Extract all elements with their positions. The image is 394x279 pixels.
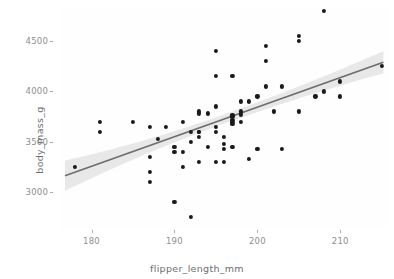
y-tick-label: 4000	[26, 86, 48, 96]
x-tick-label: 210	[332, 236, 349, 246]
x-tick-mark	[92, 230, 93, 233]
y-tick-mark	[50, 41, 53, 42]
confidence-ribbon	[65, 51, 383, 191]
x-tick-label: 190	[166, 236, 183, 246]
x-tick-mark	[257, 230, 258, 233]
x-tick-mark	[340, 230, 341, 233]
x-axis: 180190200210	[60, 230, 390, 250]
plot-panel	[60, 8, 390, 230]
y-axis-title: body_mass_g	[34, 106, 45, 173]
x-tick-label: 200	[249, 236, 266, 246]
y-tick-label: 3000	[26, 187, 48, 197]
y-tick-label: 4500	[26, 36, 48, 46]
x-axis-title: flipper_length_mm	[0, 263, 394, 274]
x-tick-mark	[174, 230, 175, 233]
y-axis: 3000350040004500	[0, 8, 56, 230]
chart-figure: 3000350040004500 180190200210 body_mass_…	[0, 0, 394, 279]
x-tick-label: 180	[83, 236, 100, 246]
plot-svg	[60, 8, 390, 230]
y-tick-mark	[50, 142, 53, 143]
y-tick-mark	[50, 91, 53, 92]
y-tick-mark	[50, 192, 53, 193]
